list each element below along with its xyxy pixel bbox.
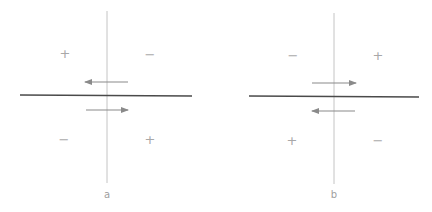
panel-a-sign-bottom-left: − bbox=[59, 132, 70, 147]
panel-a-label: a bbox=[104, 189, 110, 200]
panel-a-sign-top-left: + bbox=[60, 46, 71, 61]
panel-b: − + + − b bbox=[249, 13, 419, 200]
panel-b-sign-top-left: − bbox=[288, 48, 299, 63]
panel-b-sign-bottom-left: + bbox=[287, 133, 298, 148]
panel-b-sign-bottom-right: − bbox=[373, 133, 384, 148]
panel-a-sign-top-right: − bbox=[145, 47, 156, 62]
panel-a: + − − + a bbox=[20, 11, 192, 200]
panel-b-sign-top-right: + bbox=[373, 48, 384, 63]
panel-a-horizontal-line bbox=[20, 95, 192, 96]
panel-b-horizontal-line bbox=[249, 96, 419, 97]
diagram-canvas: + − − + a − + + − b bbox=[0, 0, 432, 212]
panel-a-sign-bottom-right: + bbox=[145, 132, 156, 147]
panel-b-label: b bbox=[331, 189, 337, 200]
